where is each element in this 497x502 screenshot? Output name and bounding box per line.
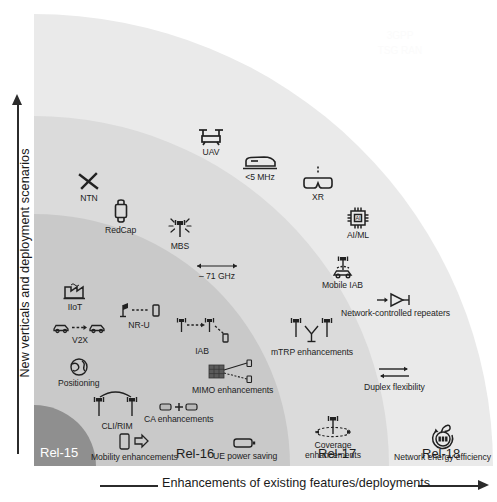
drone-icon	[196, 127, 226, 147]
x-axis-line-right	[418, 485, 480, 487]
item-label: RedCap	[105, 226, 136, 235]
item-ca[interactable]: CA enhancements	[144, 400, 213, 424]
item-label: IAB	[195, 347, 209, 356]
release-label-rel15[interactable]: Rel-15	[40, 445, 78, 460]
item-label: mTRP enhancements	[271, 348, 353, 357]
item-clirim[interactable]: CLI/RIM	[85, 389, 149, 431]
factory-icon	[62, 280, 88, 302]
interference-towers-icon	[85, 389, 149, 421]
multi-trp-icon	[284, 317, 340, 347]
plot-area: 3GPP TSG RAN UAV	[34, 14, 493, 466]
item-label: IIoT	[68, 303, 83, 312]
item-duplex[interactable]: Duplex flexibility	[364, 364, 425, 392]
broadcast-tower-icon	[164, 217, 196, 241]
coverage-tower-icon	[309, 416, 357, 440]
item-label: CA enhancements	[144, 415, 213, 424]
item-mbs[interactable]: MBS	[164, 217, 196, 251]
item-label: UE power saving	[213, 452, 277, 461]
item-label: NTN	[80, 194, 98, 203]
item-label: Mobile IAB	[322, 281, 363, 290]
item-label: CLI/RIM	[101, 422, 132, 431]
train-icon	[242, 154, 278, 172]
mimo-panel-icon	[205, 359, 261, 385]
satellite-icon	[76, 169, 102, 193]
item-label: AI/ML	[347, 231, 369, 240]
item-label: Positioning	[58, 379, 100, 388]
y-axis-label: New verticals and deployment scenarios	[18, 83, 32, 443]
item-label: Network-controlled repeaters	[341, 309, 450, 318]
item-label: – 71 GHz	[199, 272, 235, 281]
item-71ghz[interactable]: – 71 GHz	[193, 261, 241, 281]
item-nru[interactable]: NR-U	[115, 302, 163, 330]
duplex-arrows-icon	[373, 364, 415, 382]
item-mobility[interactable]: Mobility enhancements	[91, 432, 178, 462]
carrier-aggregation-icon	[157, 400, 201, 414]
watermark-line-2: TSG RAN	[315, 43, 485, 58]
x-axis: Enhancements of existing features/deploy…	[100, 474, 490, 498]
item-uav[interactable]: UAV	[196, 127, 226, 157]
x-axis-label: Enhancements of existing features/deploy…	[162, 476, 430, 490]
item-label: MBS	[171, 242, 189, 251]
battery-icon	[231, 435, 259, 451]
item-positioning[interactable]: Positioning	[58, 356, 100, 388]
item-label: UAV	[203, 148, 220, 157]
repeater-icon	[375, 292, 415, 308]
item-label: Duplex flexibility	[364, 383, 425, 392]
item-v2x[interactable]: V2X	[52, 319, 108, 345]
x-axis-line-left	[100, 485, 158, 487]
item-redcap[interactable]: RedCap	[105, 199, 136, 235]
item-aiml[interactable]: AI AI/ML	[346, 206, 370, 240]
item-mobile-iab[interactable]: Mobile IAB	[322, 256, 363, 290]
item-ue-power-saving[interactable]: UE power saving	[213, 435, 277, 461]
release-label-rel18[interactable]: Rel-18	[422, 446, 460, 461]
globe-positioning-icon	[68, 356, 90, 378]
item-iab[interactable]: IAB	[169, 316, 235, 356]
unlicensed-link-icon	[115, 302, 163, 320]
item-label: MIMO enhancements	[192, 386, 273, 395]
release-label-rel16[interactable]: Rel-16	[176, 446, 214, 461]
svg-text:AI: AI	[355, 215, 360, 221]
watermark: 3GPP TSG RAN	[315, 28, 485, 58]
item-label: <5 MHz	[245, 173, 275, 182]
item-iiot[interactable]: IIoT	[62, 280, 88, 312]
watermark-line-1: 3GPP	[315, 28, 485, 43]
item-ntn[interactable]: NTN	[76, 169, 102, 203]
iab-backhaul-icon	[169, 316, 235, 346]
y-axis: New verticals and deployment scenarios	[0, 86, 34, 460]
item-mimo[interactable]: MIMO enhancements	[192, 359, 273, 395]
item-label: Mobility enhancements	[91, 453, 178, 462]
item-label: NR-U	[128, 321, 149, 330]
item-label: XR	[312, 193, 324, 202]
roadmap-figure: New verticals and deployment scenarios 3…	[0, 0, 497, 502]
item-label: V2X	[72, 336, 88, 345]
item-network-controlled-repeaters[interactable]: Network-controlled repeaters	[341, 292, 450, 318]
right-arrow-icon	[478, 480, 489, 490]
two-cars-icon	[52, 319, 108, 335]
xr-glasses-icon	[302, 166, 334, 192]
mobile-iab-icon	[328, 256, 358, 280]
item-xr[interactable]: XR	[302, 166, 334, 202]
release-label-rel17[interactable]: Rel-17	[318, 446, 356, 461]
item-5mhz[interactable]: <5 MHz	[242, 154, 278, 182]
wearable-device-icon	[112, 199, 130, 225]
ai-chip-icon: AI	[346, 206, 370, 230]
handover-icon	[114, 432, 154, 452]
item-mtrp[interactable]: mTRP enhancements	[271, 317, 353, 357]
spectrum-range-icon	[193, 261, 241, 271]
